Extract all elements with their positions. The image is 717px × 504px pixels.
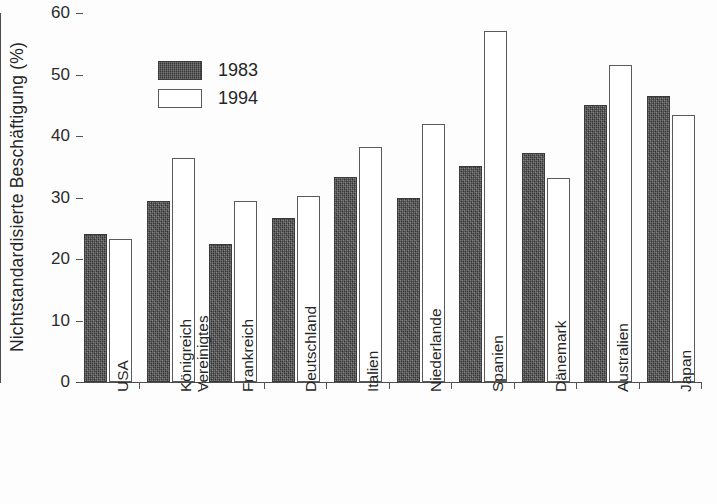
x-tick-mark xyxy=(451,382,452,389)
bar-1983 xyxy=(334,177,357,382)
y-tick-mark xyxy=(76,136,83,137)
y-tick-mark xyxy=(76,259,83,260)
legend-row: 1994 xyxy=(158,84,298,112)
x-category-label: VereinigtesKönigreich xyxy=(177,392,178,393)
x-tick-mark xyxy=(639,382,640,389)
x-tick-mark xyxy=(576,382,577,389)
y-tick-label: 10 xyxy=(36,311,70,331)
y-tick-mark xyxy=(76,13,83,14)
y-tick-label: 30 xyxy=(36,188,70,208)
x-category-label: USA xyxy=(114,392,115,393)
chart-legend: 19831994 xyxy=(158,56,298,112)
y-tick-label: 20 xyxy=(36,249,70,269)
x-tick-mark xyxy=(701,382,702,389)
bar-1983 xyxy=(147,201,170,382)
x-category-label-line: Frankreich xyxy=(239,319,256,392)
bar-1994 xyxy=(484,31,507,382)
x-category-label: Italien xyxy=(364,392,365,393)
bar-1994 xyxy=(672,115,695,382)
x-category-label-line: Niederlande xyxy=(427,308,444,392)
x-category-label-line: Australien xyxy=(614,323,631,392)
legend-swatch xyxy=(158,89,202,108)
x-category-label-line: Königreich xyxy=(177,315,194,392)
x-category-label: Australien xyxy=(614,392,615,393)
y-tick-label: 0 xyxy=(36,372,70,392)
x-tick-mark xyxy=(139,382,140,389)
bar-1983 xyxy=(647,96,670,382)
bar-1983 xyxy=(84,234,107,382)
x-category-label-line: Vereinigtes xyxy=(194,315,211,392)
x-category-label-line: Spanien xyxy=(489,335,506,392)
legend-label: 1983 xyxy=(218,60,258,81)
y-tick-mark xyxy=(76,321,83,322)
x-tick-mark xyxy=(389,382,390,389)
x-tick-mark xyxy=(201,382,202,389)
y-axis-line xyxy=(0,13,1,383)
bar-group xyxy=(334,147,382,382)
x-category-label-line: Deutschland xyxy=(302,306,319,392)
x-category-label: Japan xyxy=(677,392,678,393)
x-category-label-line: USA xyxy=(114,360,131,392)
x-tick-mark xyxy=(326,382,327,389)
y-axis-ticks: 0102030405060 xyxy=(0,0,70,504)
x-category-label: Frankreich xyxy=(239,392,240,393)
y-tick-mark xyxy=(76,198,83,199)
y-tick-label: 50 xyxy=(36,65,70,85)
x-tick-mark xyxy=(514,382,515,389)
legend-row: 1983 xyxy=(158,56,298,84)
x-category-label: Spanien xyxy=(489,392,490,393)
bar-group xyxy=(459,31,507,382)
bar-chart: Nichtstandardisierte Beschäftigung (%) 0… xyxy=(0,0,717,504)
x-category-label-line: Japan xyxy=(677,350,694,392)
y-tick-mark xyxy=(76,75,83,76)
bar-1983 xyxy=(209,244,232,382)
legend-swatch xyxy=(158,61,202,80)
bar-1983 xyxy=(272,218,295,382)
bar-1983 xyxy=(459,166,482,382)
y-tick-label: 40 xyxy=(36,126,70,146)
x-category-label: Deutschland xyxy=(302,392,303,393)
y-tick-label: 60 xyxy=(36,3,70,23)
bar-1983 xyxy=(584,105,607,382)
bar-1994 xyxy=(359,147,382,382)
x-category-label: Niederlande xyxy=(427,392,428,393)
x-category-label-line: Italien xyxy=(364,351,381,392)
x-category-label-line: Dänemark xyxy=(552,321,569,393)
legend-label: 1994 xyxy=(218,88,258,109)
x-tick-mark xyxy=(264,382,265,389)
x-category-label: Dänemark xyxy=(552,392,553,393)
bar-1983 xyxy=(397,198,420,383)
bar-1983 xyxy=(522,153,545,382)
bar-group xyxy=(647,96,695,382)
